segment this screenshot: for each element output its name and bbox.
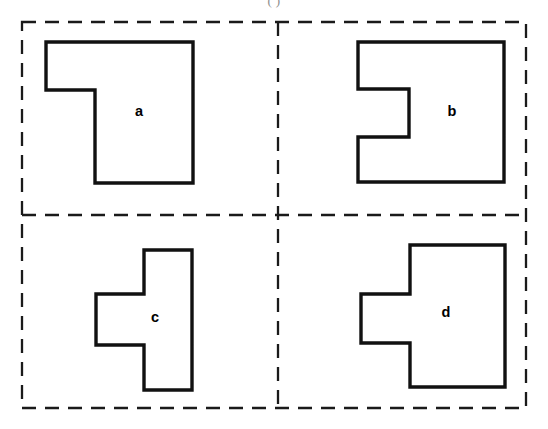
shape-a-label: a bbox=[135, 103, 144, 119]
figure-container: ( ) a b c d bbox=[0, 0, 548, 429]
quadrant-bottom-right: d bbox=[361, 245, 505, 387]
quadrant-top-right: b bbox=[358, 42, 504, 182]
shape-c-outline bbox=[96, 250, 192, 390]
shape-b-label: b bbox=[448, 103, 457, 119]
shape-c-label: c bbox=[151, 309, 159, 325]
shape-b-outline bbox=[358, 42, 504, 182]
shape-d-outline bbox=[361, 245, 505, 387]
four-panel-shape-figure: a b c d bbox=[0, 0, 548, 429]
quadrant-top-left: a bbox=[46, 42, 193, 183]
shape-d-label: d bbox=[442, 304, 451, 320]
quadrant-bottom-left: c bbox=[96, 250, 192, 390]
shape-a-outline bbox=[46, 42, 193, 183]
